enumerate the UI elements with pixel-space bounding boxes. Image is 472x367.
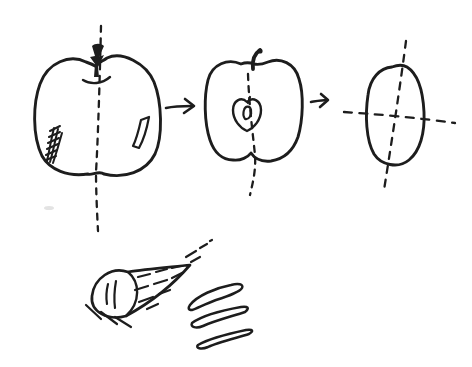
cross-section-stem-tip (257, 48, 262, 53)
sketch-page (0, 0, 472, 367)
sketch-canvas (0, 0, 472, 367)
paper-smudge (44, 206, 54, 210)
